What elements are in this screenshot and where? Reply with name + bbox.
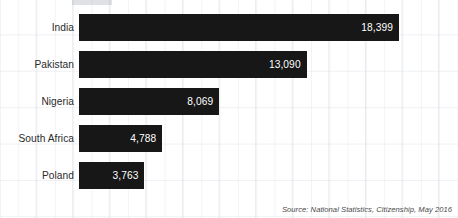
category-label: India bbox=[0, 14, 74, 41]
category-label: South Africa bbox=[0, 125, 74, 152]
bar: 8,069 bbox=[79, 88, 219, 115]
bar: 3,763 bbox=[79, 162, 144, 189]
bar-track: 18,399 bbox=[79, 14, 399, 41]
bar-value-label: 13,090 bbox=[269, 59, 301, 70]
bar-track: 13,090 bbox=[79, 51, 307, 78]
category-label: Poland bbox=[0, 162, 74, 189]
bar: 13,090 bbox=[79, 51, 307, 78]
bar-value-label: 4,788 bbox=[130, 133, 156, 144]
bar-row: Nigeria8,069 bbox=[0, 88, 458, 115]
bar-value-label: 8,069 bbox=[187, 96, 213, 107]
category-label: Nigeria bbox=[0, 88, 74, 115]
cropped-top-element bbox=[72, 0, 112, 5]
bar: 4,788 bbox=[79, 125, 162, 152]
plot-area: India18,399Pakistan13,090Nigeria8,069Sou… bbox=[0, 14, 458, 192]
bar-value-label: 3,763 bbox=[112, 170, 138, 181]
bar-row: South Africa4,788 bbox=[0, 125, 458, 152]
bar-row: India18,399 bbox=[0, 14, 458, 41]
bar-chart: India18,399Pakistan13,090Nigeria8,069Sou… bbox=[0, 0, 458, 218]
bar-track: 3,763 bbox=[79, 162, 144, 189]
source-note: Source: National Statistics, Citizenship… bbox=[282, 205, 452, 214]
bar: 18,399 bbox=[79, 14, 399, 41]
bar-value-label: 18,399 bbox=[361, 22, 393, 33]
bar-row: Pakistan13,090 bbox=[0, 51, 458, 78]
bar-track: 4,788 bbox=[79, 125, 162, 152]
bar-row: Poland3,763 bbox=[0, 162, 458, 189]
bar-track: 8,069 bbox=[79, 88, 219, 115]
category-label: Pakistan bbox=[0, 51, 74, 78]
